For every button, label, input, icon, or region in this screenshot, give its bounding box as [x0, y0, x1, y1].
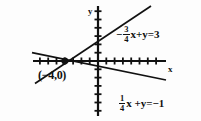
- equation-bottom-remainder: x +y=−1: [126, 98, 164, 109]
- equation-bottom: 1 4 x +y=−1: [118, 94, 164, 112]
- equation-top-remainder: x+y=3: [131, 29, 160, 40]
- equation-bottom-denominator: 4: [119, 103, 125, 113]
- equation-top: − 3 4 x+y=3: [116, 25, 160, 43]
- y-axis-label: y: [88, 6, 93, 16]
- equation-top-denominator: 4: [123, 34, 129, 44]
- equation-bottom-fraction: 1 4: [119, 94, 125, 112]
- intersection-point-label: (−4,0): [38, 68, 66, 83]
- equation-top-numerator: 3: [123, 25, 129, 34]
- graph-figure: y x (−4,0) − 3 4 x+y=3 1 4 x +y=−1: [0, 0, 201, 121]
- intersection-point-marker: [61, 58, 68, 65]
- x-axis-label: x: [168, 64, 173, 74]
- equation-top-sign: −: [116, 29, 122, 40]
- equation-bottom-numerator: 1: [119, 94, 125, 103]
- x-axis-ticks-positive: [106, 58, 156, 65]
- equation-top-fraction: 3 4: [123, 25, 129, 43]
- coordinate-plane: [0, 0, 201, 121]
